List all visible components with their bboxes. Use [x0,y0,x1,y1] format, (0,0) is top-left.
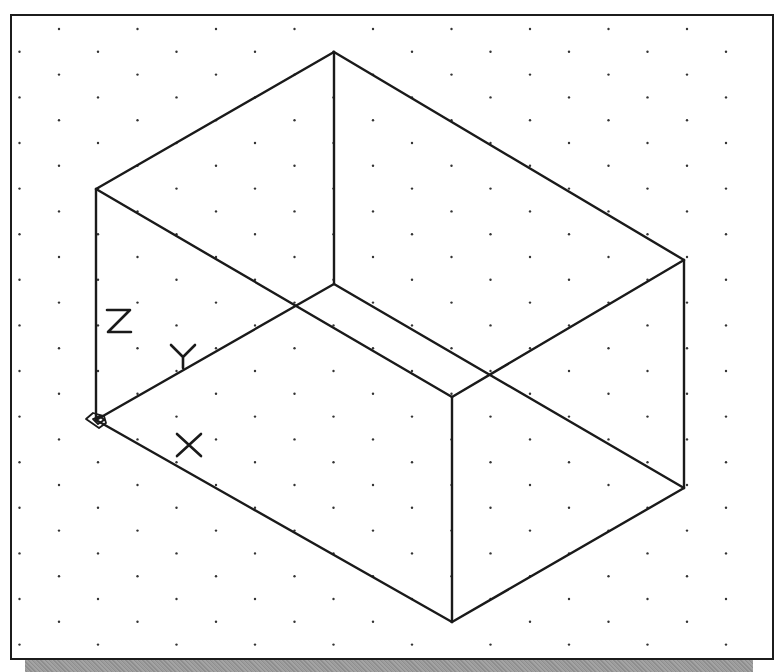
grid-dot [646,51,648,53]
grid-dot [215,73,217,75]
grid-dot [686,347,688,349]
grid-dot [332,370,334,372]
grid-dot [18,142,20,144]
grid-dot [58,119,60,121]
grid-dot [725,187,727,189]
grid-dot [411,324,413,326]
grid-dot [293,210,295,212]
box-edge[interactable] [452,260,684,397]
grid-dot [686,256,688,258]
box-edge[interactable] [334,52,684,260]
grid-dot [175,370,177,372]
grid-dot [215,621,217,623]
grid-dot [568,598,570,600]
box-edge[interactable] [96,420,452,622]
grid-dot [450,347,452,349]
box-edge[interactable] [96,189,452,397]
grid-dot [293,256,295,258]
grid-dot [18,643,20,645]
grid-dot [254,598,256,600]
grid-dot [725,507,727,509]
grid-dot [332,598,334,600]
grid-dot [58,393,60,395]
grid-dot [136,119,138,121]
grid-dot [646,233,648,235]
grid-dot [646,415,648,417]
grid-dot [97,461,99,463]
grid-dot [489,415,491,417]
grid-dot [646,187,648,189]
grid-dot [58,28,60,30]
grid-dot [254,51,256,53]
grid-dot [607,438,609,440]
grid-dot [215,529,217,531]
grid-dot [568,233,570,235]
grid-dot [293,28,295,30]
grid-dot [293,165,295,167]
grid-dot [215,484,217,486]
grid-dot [646,96,648,98]
grid-dot [254,233,256,235]
grid-dot [489,370,491,372]
grid-dot [725,96,727,98]
grid-dot [725,643,727,645]
grid-dot [607,28,609,30]
grid-dot [686,484,688,486]
grid-dot [58,256,60,258]
grid-dot [607,484,609,486]
grid-dot [58,575,60,577]
grid-dot [254,324,256,326]
grid-dot [725,51,727,53]
grid-dot [136,529,138,531]
grid-dot [568,142,570,144]
grid-dot [686,529,688,531]
grid-dot [136,575,138,577]
grid-dot [136,347,138,349]
z-axis-label-icon [107,310,131,332]
grid-dot [411,461,413,463]
grid-dot [686,621,688,623]
grid-dot [18,279,20,281]
grid-dot [450,73,452,75]
grid-dot [607,256,609,258]
grid-dot [607,119,609,121]
grid-dot [254,643,256,645]
box-edge[interactable] [96,52,334,189]
grid-dot [411,552,413,554]
box-edge[interactable] [334,284,684,488]
grid-dot [58,165,60,167]
grid-dot [568,51,570,53]
grid-dot [489,552,491,554]
grid-dot [568,370,570,372]
grid-dot [607,73,609,75]
grid-dot [372,28,374,30]
grid-dot [58,621,60,623]
grid-dot [529,256,531,258]
grid-dot [175,415,177,417]
grid-dot [18,187,20,189]
grid-dot [529,210,531,212]
grid-dot [215,575,217,577]
grid-dot [18,598,20,600]
grid-dot [97,552,99,554]
grid-dot [489,233,491,235]
grid-dot [254,142,256,144]
grid-dot [293,438,295,440]
grid-dot [529,484,531,486]
grid-dot [254,415,256,417]
grid-dot [372,438,374,440]
grid-dot [725,370,727,372]
grid-dot [686,575,688,577]
grid-dot [529,301,531,303]
grid-dot [136,301,138,303]
grid-dot [58,438,60,440]
grid-dot [18,461,20,463]
grid-dot [725,415,727,417]
wireframe-box[interactable] [96,52,684,622]
grid-dot [607,575,609,577]
grid-dot [97,96,99,98]
grid-dot [175,51,177,53]
grid-dot [568,643,570,645]
box-edge[interactable] [96,284,334,420]
